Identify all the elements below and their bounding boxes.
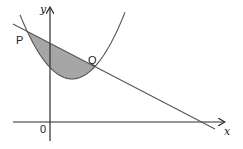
parabola-line-diagram: y x 0 P Q	[0, 0, 243, 149]
y-axis-label: y	[39, 3, 47, 16]
straight-line	[13, 24, 215, 129]
shaded-region	[27, 31, 95, 79]
point-q-label: Q	[88, 54, 97, 66]
origin-label: 0	[40, 123, 46, 135]
x-axis-label: x	[224, 125, 231, 138]
point-p-label: P	[16, 34, 23, 46]
